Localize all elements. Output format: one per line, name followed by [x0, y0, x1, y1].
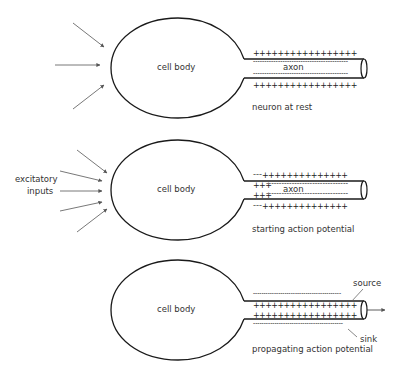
excitatory-inputs-label: excitatory [15, 174, 58, 184]
outer-charge-bottom-minus: --- [253, 201, 262, 210]
cell-body-label: cell body [157, 304, 195, 314]
outer-charge-bottom: +++++++++++++++++ [253, 81, 357, 90]
sink-label: sink [360, 334, 377, 344]
cell-body-label: cell body [157, 184, 195, 194]
neuron-diagram: cell body +++++++++++++++++ ------------… [0, 0, 398, 373]
outer-charge-bottom: ----------------------------------------… [253, 319, 343, 328]
outer-charge-bottom-plus: ++++++++++++++ [262, 202, 347, 211]
panel-propagating-action-potential: cell body ------------------------------… [111, 260, 385, 360]
inner-charge-bottom: ----------------------------------------… [253, 69, 348, 78]
inner-charge-top: +++++++++++++++++ [253, 301, 357, 310]
input-arrow-icon [60, 171, 102, 181]
outer-charge-top: ----------------------------------------… [253, 289, 341, 298]
axon-end-cap [361, 181, 367, 199]
inner-charge-top-minus: -------------------------------- [266, 179, 348, 188]
excitatory-input-arrows [60, 150, 107, 232]
axon-end-cap [361, 59, 367, 78]
caption-starting-action-potential: starting action potential [252, 224, 354, 234]
sink-pointer-line [348, 329, 357, 337]
input-arrows [55, 23, 104, 109]
inner-charge-bottom-minus: -------------------------------- [266, 189, 348, 198]
input-arrow-icon [73, 23, 104, 47]
input-arrow-icon [60, 202, 102, 211]
caption-propagating-action-potential: propagating action potential [252, 344, 373, 354]
panel-neuron-at-rest: cell body +++++++++++++++++ ------------… [55, 18, 367, 118]
caption-neuron-at-rest: neuron at rest [252, 102, 313, 112]
cell-body-label: cell body [157, 62, 195, 72]
input-arrow-icon [77, 150, 107, 173]
input-arrow-icon [73, 85, 104, 109]
source-label: source [353, 278, 381, 288]
outer-charge-top-minus: --- [253, 170, 262, 179]
axon-end-cap [361, 301, 367, 319]
source-pointer-line [351, 289, 363, 302]
panel-starting-action-potential: excitatory inputs cell body --- ++++++++… [15, 140, 367, 240]
input-arrow-icon [77, 209, 107, 232]
excitatory-inputs-label-line2: inputs [27, 186, 54, 196]
